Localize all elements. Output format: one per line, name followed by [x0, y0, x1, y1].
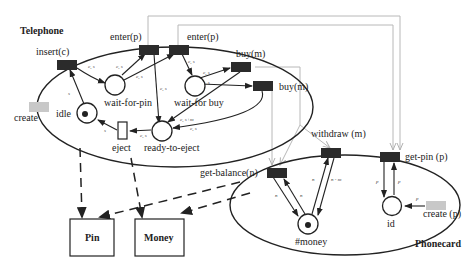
label-get-pin: get-pin (p) [405, 151, 448, 163]
place-id[interactable] [383, 197, 402, 216]
svg-text:n - m: n - m [331, 177, 342, 182]
svg-text:c, s: c, s [88, 64, 95, 70]
transition-withdraw[interactable] [321, 148, 341, 158]
transition-enter-1[interactable] [139, 45, 159, 55]
telephone-title: Telephone [20, 25, 64, 36]
transition-buy-2[interactable] [253, 81, 273, 91]
label-wait-for-pin: wait-for-pin [104, 97, 152, 108]
svg-text:p: p [375, 179, 379, 184]
token-idle [82, 111, 88, 117]
label-create-p: create (p) [423, 208, 461, 220]
label-enter-2: enter(p) [187, 31, 219, 43]
label-withdraw: withdraw (m) [311, 128, 366, 140]
label-enter-1: enter(p) [110, 31, 142, 43]
svg-text:p: p [397, 179, 401, 184]
label-module-money: Money [144, 232, 173, 243]
transition-enter-2[interactable] [169, 45, 189, 55]
phonecard-arcs [273, 158, 425, 216]
label-idle: idle [56, 108, 72, 119]
svg-text:c, s: c, s [190, 126, 197, 132]
svg-text:p: p [415, 196, 419, 201]
label-get-balance: get-balance(n) [200, 167, 258, 179]
place-ready-to-eject[interactable] [152, 121, 172, 141]
label-buy-2: buy(m) [279, 81, 308, 93]
transition-get-pin[interactable] [380, 152, 400, 162]
petri-net-diagram: Telephone Phonecard c, s c, s c, s c, s … [0, 0, 475, 269]
label-money: #money [295, 236, 327, 247]
svg-text:c, s: c, s [116, 64, 123, 70]
svg-text:n: n [275, 193, 278, 198]
token-money [305, 222, 311, 228]
svg-text:n: n [300, 193, 303, 198]
svg-text:n: n [312, 177, 315, 182]
label-module-pin: Pin [85, 232, 100, 243]
transition-insert[interactable] [57, 60, 77, 70]
place-wait-for-pin[interactable] [105, 75, 125, 95]
phonecard-arc-labels: n n n n - m p p p [275, 177, 419, 201]
transition-get-balance[interactable] [267, 168, 287, 178]
label-insert: insert(c) [36, 46, 69, 58]
transition-create-stub[interactable] [29, 102, 49, 112]
transition-buy-1[interactable] [231, 62, 251, 72]
place-wait-for-buy[interactable] [185, 76, 205, 96]
label-ready-to-eject: ready-to-eject [144, 142, 200, 153]
label-create: create [14, 112, 38, 123]
svg-text:c, s: c, s [188, 59, 195, 65]
phonecard-title: Phonecard [415, 238, 462, 249]
svg-text:s: s [104, 128, 106, 133]
label-wait-for-buy: wait-for buy [174, 97, 224, 108]
svg-text:c, s: c, s [160, 86, 167, 92]
svg-text:c, s: c, s [136, 74, 143, 80]
label-eject: eject [112, 142, 131, 153]
svg-text:c, s+m: c, s+m [180, 117, 194, 123]
transition-eject[interactable] [118, 122, 127, 139]
label-buy-1: buy(m) [236, 48, 265, 60]
svg-text:s: s [68, 91, 70, 96]
label-id: id [387, 218, 395, 229]
svg-text:c, s: c, s [140, 133, 147, 139]
